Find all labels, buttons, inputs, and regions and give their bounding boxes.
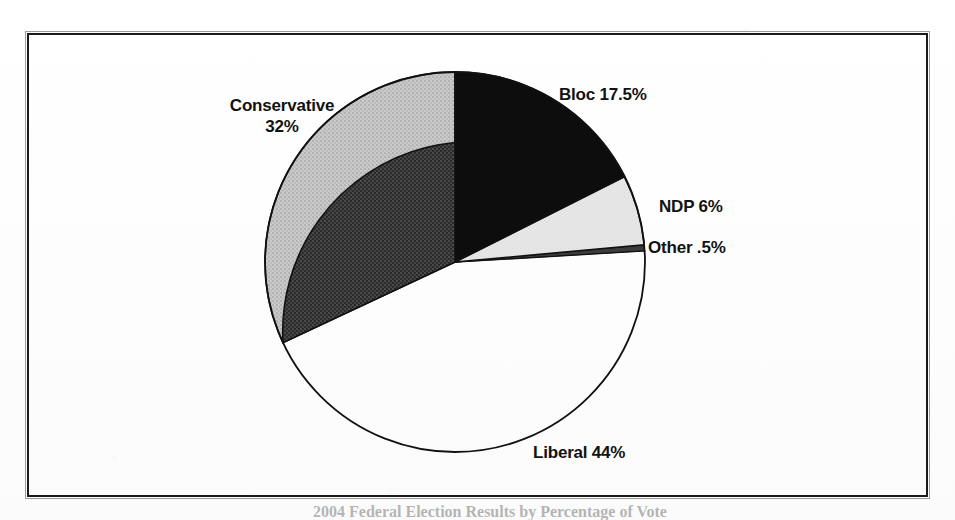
figure-page: Bloc 17.5% NDP 6% Other .5% Liberal 44% …: [0, 0, 955, 520]
figure-border-frame: [27, 33, 928, 497]
pie-label-other: Other .5%: [648, 238, 726, 259]
pie-label-conservative-name: Conservative: [230, 96, 334, 115]
pie-label-liberal: Liberal 44%: [533, 443, 625, 464]
pie-label-ndp: NDP 6%: [659, 197, 723, 218]
pie-label-bloc: Bloc 17.5%: [559, 85, 647, 106]
pie-label-conservative-percent: 32%: [206, 117, 358, 138]
figure-caption: 2004 Federal Election Results by Percent…: [150, 503, 830, 520]
pie-label-conservative: Conservative 32%: [206, 96, 358, 137]
